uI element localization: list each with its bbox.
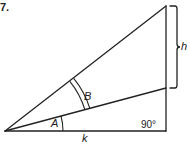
triangle-diagram — [0, 0, 190, 144]
angle-a-label: A — [51, 118, 58, 129]
hypotenuse-outer — [5, 6, 166, 131]
base-label: k — [82, 133, 88, 144]
problem-number: 7. — [0, 2, 9, 13]
angle-b-arc-inner — [70, 81, 85, 109]
height-brace — [170, 6, 180, 88]
right-angle-label: 90° — [141, 119, 156, 130]
height-label: h — [181, 41, 187, 52]
angle-a-arc — [61, 116, 63, 131]
angle-b-label: B — [84, 91, 91, 102]
